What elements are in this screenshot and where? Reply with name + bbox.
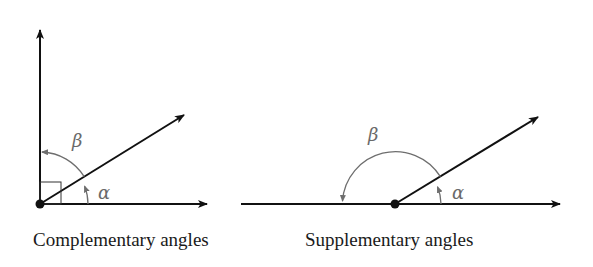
supplementary-caption: Supplementary angles <box>305 229 473 251</box>
complementary-caption: Complementary angles <box>33 229 209 251</box>
alpha-arc <box>85 186 88 204</box>
supplementary-figure: β α <box>241 117 560 209</box>
diagonal-ray <box>40 115 184 204</box>
angles-diagram: β α β α <box>0 0 593 267</box>
alpha-arc <box>438 187 442 204</box>
diagonal-ray <box>395 117 538 204</box>
alpha-label: α <box>452 182 464 203</box>
beta-arc <box>42 152 84 177</box>
beta-label: β <box>367 124 378 145</box>
complementary-figure: β α <box>36 30 208 209</box>
vertex-dot <box>36 200 45 209</box>
beta-arc <box>343 152 441 201</box>
vertex-dot <box>391 200 400 209</box>
alpha-label: α <box>98 182 110 203</box>
beta-label: β <box>71 130 82 151</box>
